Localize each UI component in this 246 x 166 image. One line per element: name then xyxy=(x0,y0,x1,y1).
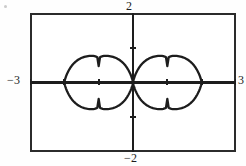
axis-label-ymax: 2 xyxy=(126,0,132,12)
axis-label-ymin: −2 xyxy=(124,152,137,164)
axis-label-xmin: −3 xyxy=(7,74,20,86)
calculator-plot-screenshot: 2 −2 −3 3 xyxy=(0,0,246,166)
scan-artifact-speck xyxy=(4,5,7,8)
plot-content xyxy=(30,13,236,152)
axis-label-xmax: 3 xyxy=(238,74,244,86)
plot-canvas xyxy=(30,13,236,152)
